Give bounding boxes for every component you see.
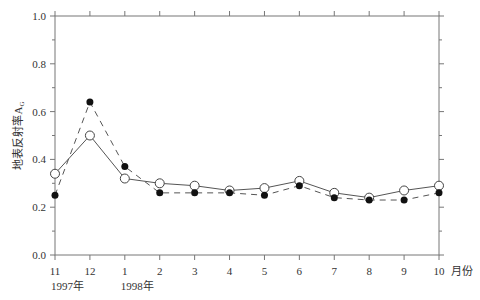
x-tick-label: 12 xyxy=(84,265,95,277)
y-tick-label: 0.2 xyxy=(32,201,46,213)
filled-circle-marker xyxy=(226,189,233,196)
x-tick-label: 4 xyxy=(227,265,233,277)
open-circle-marker xyxy=(435,181,444,190)
y-tick-label: 0.4 xyxy=(32,153,46,165)
albedo-chart: 0.00.20.40.60.81.0111212345678910月份1997年… xyxy=(0,0,480,300)
open-circle-marker xyxy=(190,181,199,190)
year-label: 1997年 xyxy=(51,279,84,292)
filled-circle-marker xyxy=(52,192,59,199)
open-circle-marker xyxy=(51,169,60,178)
y-tick-label: 1.0 xyxy=(32,10,46,22)
x-tick-label: 3 xyxy=(192,265,198,277)
y-tick-label: 0.0 xyxy=(32,249,46,261)
filled-circle-marker xyxy=(331,194,338,201)
filled-circle-marker xyxy=(156,189,163,196)
x-tick-label: 10 xyxy=(434,265,446,277)
open-circle-marker xyxy=(260,184,269,193)
x-tick-label: 9 xyxy=(401,265,407,277)
open-circle-marker xyxy=(120,174,129,183)
open-circle-marker xyxy=(85,131,94,140)
filled-circle-marker xyxy=(401,197,408,204)
y-tick-label: 0.8 xyxy=(32,58,46,70)
year-label: 1998年 xyxy=(121,279,154,292)
x-tick-label: 7 xyxy=(332,265,338,277)
y-axis-label: 地表反射率AG xyxy=(11,101,26,169)
plot-frame xyxy=(55,16,439,255)
open-circle-marker xyxy=(155,179,164,188)
filled-circle-marker xyxy=(436,189,443,196)
y-tick-label: 0.6 xyxy=(32,106,46,118)
filled-circle-marker xyxy=(261,192,268,199)
x-tick-label: 8 xyxy=(366,265,372,277)
filled-circle-marker xyxy=(191,189,198,196)
filled-circle-marker xyxy=(86,99,93,106)
x-tick-label: 6 xyxy=(297,265,303,277)
x-tick-label: 1 xyxy=(122,265,128,277)
filled-circle-marker xyxy=(366,197,373,204)
x-tick-label: 11 xyxy=(50,265,61,277)
x-tick-label: 2 xyxy=(157,265,163,277)
filled-circle-marker xyxy=(121,163,128,170)
x-tick-label: 5 xyxy=(262,265,268,277)
x-axis-label: 月份 xyxy=(451,265,473,277)
series-line-filled-circle-dashed xyxy=(55,102,439,200)
filled-circle-marker xyxy=(296,182,303,189)
open-circle-marker xyxy=(400,186,409,195)
